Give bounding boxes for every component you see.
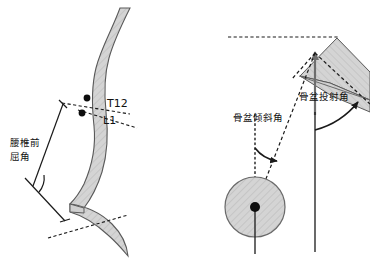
l1-marker-dot [79,110,86,117]
lumbar-anteflexion-angle-label-line1: 腰椎前 [10,137,40,148]
pelvic-incidence-angle-label: 骨盆投射角 [299,91,349,102]
pelvic-tilt-arc [255,148,277,161]
anatomical-figure: T12 L1 腰椎前 屈角 [0,0,370,260]
figure-canvas: T12 L1 腰椎前 屈角 [0,0,370,260]
pelvic-incidence-arc [315,102,358,130]
left-panel: T12 L1 腰椎前 屈角 [10,8,137,256]
lumbar-anteflexion-angle-label-line2: 屈角 [10,151,30,162]
femoral-head-center-dot [250,202,260,212]
bracket-limb-lower [25,178,65,221]
t12-label: T12 [106,97,128,110]
pelvic-tilt-angle-label: 骨盆倾斜角 [233,112,283,123]
lumbar-angle-arc [39,175,44,192]
l1-label: L1 [103,114,116,127]
t12-marker-dot [84,95,91,102]
right-panel: 骨盆投射角 骨盆倾斜角 [225,37,370,254]
